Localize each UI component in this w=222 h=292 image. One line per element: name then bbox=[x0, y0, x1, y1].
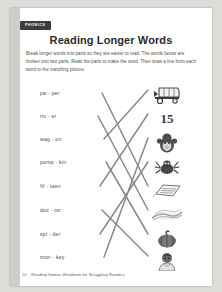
pumpkin-picture[interactable] bbox=[150, 228, 184, 249]
fifteen-picture[interactable]: 15 bbox=[150, 108, 184, 129]
connector-line bbox=[98, 116, 148, 210]
spider-picture[interactable] bbox=[150, 156, 184, 177]
paper-icon bbox=[152, 183, 182, 199]
section-badge: PHONICS bbox=[20, 21, 51, 30]
worksheet-page: PHONICS Reading Longer Words Break longe… bbox=[10, 8, 212, 286]
word-item[interactable]: wag - on bbox=[40, 136, 62, 142]
instructions-text: Break longer words into parts so they ar… bbox=[26, 50, 198, 74]
paper-picture[interactable] bbox=[150, 180, 184, 201]
word-item[interactable]: mon - key bbox=[40, 254, 65, 260]
doctor-picture[interactable] bbox=[150, 250, 184, 271]
word-item[interactable]: doc - tor bbox=[40, 207, 61, 213]
doctor-icon bbox=[156, 251, 178, 271]
word-list: pa - perriv - erwag - onpump - kinfif - … bbox=[40, 80, 104, 268]
wagon-picture[interactable] bbox=[150, 84, 184, 105]
connector-line bbox=[104, 90, 148, 139]
footer-book-title: Reading Games Workbook for Struggling Re… bbox=[31, 272, 124, 277]
matching-activity: pa - perriv - erwag - onpump - kinfif - … bbox=[10, 80, 212, 268]
connector-line bbox=[100, 114, 148, 186]
wagon-icon bbox=[152, 85, 182, 104]
word-item[interactable]: riv - er bbox=[40, 113, 56, 119]
monkey-picture[interactable] bbox=[150, 132, 184, 153]
spider-icon bbox=[154, 158, 180, 175]
river-icon bbox=[151, 207, 183, 222]
word-item[interactable]: fif - teen bbox=[40, 183, 61, 189]
pumpkin-icon bbox=[156, 229, 178, 248]
picture-list: 15 bbox=[150, 80, 206, 268]
connector-line bbox=[102, 210, 148, 256]
screenshot-root: PHONICS Reading Longer Words Break longe… bbox=[0, 0, 222, 292]
monkey-icon bbox=[156, 133, 178, 153]
word-item[interactable]: pa - per bbox=[40, 90, 60, 96]
word-item[interactable]: spi - der bbox=[40, 231, 61, 237]
river-picture[interactable] bbox=[150, 204, 184, 225]
page-title: Reading Longer Words bbox=[10, 34, 212, 46]
word-item[interactable]: pump - kin bbox=[40, 159, 66, 165]
number-fifteen-icon: 15 bbox=[161, 111, 174, 127]
footer-page-number: 10 bbox=[22, 272, 26, 277]
page-footer: 10 Reading Games Workbook for Struggling… bbox=[22, 272, 125, 277]
